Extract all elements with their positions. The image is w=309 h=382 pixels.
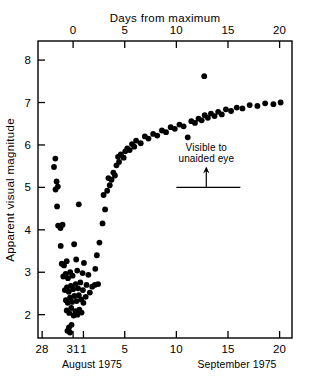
data-point xyxy=(60,222,66,228)
y-tick-label: 4 xyxy=(24,224,31,236)
bottom-tick-label: 31 xyxy=(67,343,80,355)
data-point xyxy=(77,280,83,286)
data-point xyxy=(71,241,77,247)
data-point xyxy=(219,112,225,118)
annotation-text-line1: Visible to xyxy=(186,142,228,153)
data-point xyxy=(223,106,229,112)
data-point xyxy=(58,243,64,249)
data-point xyxy=(67,330,73,336)
y-tick-label: 7 xyxy=(24,97,31,109)
y-axis-ticks xyxy=(38,60,45,315)
top-tick-label: 10 xyxy=(170,24,183,36)
data-point xyxy=(64,258,70,264)
bottom-tick-label: 15 xyxy=(221,343,234,355)
data-point xyxy=(146,136,152,142)
data-point xyxy=(112,173,118,179)
data-point xyxy=(102,207,108,213)
data-point xyxy=(76,201,82,207)
data-point xyxy=(81,300,87,306)
data-point xyxy=(79,310,85,316)
data-point xyxy=(51,164,57,170)
data-point xyxy=(154,133,160,139)
data-point xyxy=(100,221,106,227)
data-point-series xyxy=(51,73,283,335)
month-label-september: September 1975 xyxy=(197,358,276,370)
data-point xyxy=(234,105,240,111)
y-axis-title: Apparent visual magnitude xyxy=(4,118,16,262)
data-point xyxy=(228,108,234,114)
data-point xyxy=(85,272,91,278)
data-point xyxy=(104,188,110,194)
data-point xyxy=(80,270,86,276)
data-point xyxy=(80,287,86,293)
data-point xyxy=(54,204,60,210)
data-point xyxy=(92,266,98,272)
chart-page: Days from maximum 05101520 283115101520 … xyxy=(0,0,309,382)
bottom-tick-label: 20 xyxy=(273,343,286,355)
top-axis-ticks xyxy=(73,41,280,48)
bottom-tick-label: 28 xyxy=(36,343,49,355)
top-tick-label: 20 xyxy=(273,24,286,36)
data-point xyxy=(107,182,113,188)
data-point xyxy=(131,144,137,150)
data-point xyxy=(116,159,122,165)
data-point xyxy=(73,257,79,263)
bottom-tick-label: 1 xyxy=(80,343,87,355)
y-tick-label: 8 xyxy=(24,54,31,66)
y-axis-tick-labels: 2345678 xyxy=(24,54,31,321)
bottom-tick-label: 5 xyxy=(121,343,128,355)
top-tick-label: 5 xyxy=(121,24,128,36)
top-axis-tick-labels: 05101520 xyxy=(70,24,286,36)
data-point xyxy=(70,273,76,279)
data-point xyxy=(201,73,207,79)
data-point xyxy=(81,260,87,266)
data-point xyxy=(199,117,205,123)
month-label-august: August 1975 xyxy=(62,358,122,370)
data-point xyxy=(255,103,261,109)
bottom-axis-ticks xyxy=(42,331,279,338)
data-point xyxy=(84,282,90,288)
data-point xyxy=(138,140,144,146)
y-tick-label: 5 xyxy=(24,181,31,193)
data-point xyxy=(69,322,75,328)
light-curve-chart: Days from maximum 05101520 283115101520 … xyxy=(0,0,309,382)
data-point xyxy=(181,123,187,129)
data-point xyxy=(121,155,127,161)
visibility-annotation: Visible tounaided eye xyxy=(176,142,240,187)
y-tick-label: 6 xyxy=(24,139,31,151)
data-point xyxy=(278,100,284,106)
y-tick-label: 3 xyxy=(24,266,31,278)
data-point xyxy=(262,100,268,106)
data-point xyxy=(185,134,191,140)
data-point xyxy=(52,156,58,162)
data-point xyxy=(247,102,253,108)
data-point xyxy=(87,290,93,296)
data-point xyxy=(83,294,89,300)
top-axis-title: Days from maximum xyxy=(110,12,221,24)
plot-frame xyxy=(38,41,292,338)
data-point xyxy=(271,101,277,107)
data-point xyxy=(163,129,169,135)
data-point xyxy=(55,184,61,190)
data-point xyxy=(70,286,76,292)
bottom-axis-tick-labels: 283115101520 xyxy=(36,343,287,355)
data-point xyxy=(54,179,60,185)
top-tick-label: 15 xyxy=(221,24,234,36)
top-tick-label: 0 xyxy=(70,24,77,36)
data-point xyxy=(94,252,100,258)
y-tick-label: 2 xyxy=(24,309,31,321)
data-point xyxy=(95,281,101,287)
bottom-tick-label: 10 xyxy=(170,343,183,355)
data-point xyxy=(240,106,246,112)
data-point xyxy=(97,240,103,246)
annotation-text-line2: unaided eye xyxy=(179,153,235,164)
data-point xyxy=(172,126,178,132)
data-point xyxy=(74,268,80,274)
